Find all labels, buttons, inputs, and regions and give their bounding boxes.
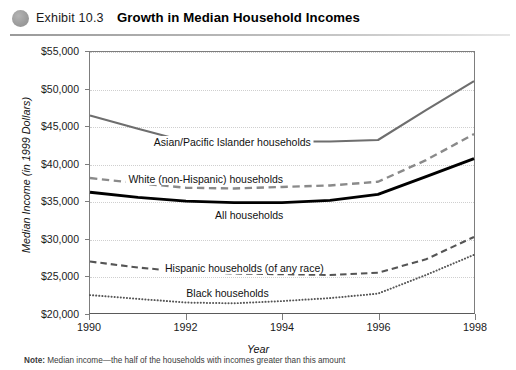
exhibit-header: Exhibit 10.3 Growth in Median Household … xyxy=(0,0,516,38)
header-divider xyxy=(10,34,510,36)
y-axis-label: $50,000 xyxy=(41,83,79,95)
x-axis-label: 1990 xyxy=(77,321,101,333)
page-title: Growth in Median Household Incomes xyxy=(117,10,360,25)
y-axis-label: $30,000 xyxy=(41,233,79,245)
series-line xyxy=(90,81,474,141)
x-axis-label: 1992 xyxy=(173,321,197,333)
y-axis-label: $25,000 xyxy=(41,270,79,282)
y-axis-label: $45,000 xyxy=(41,120,79,132)
y-axis-label: $55,000 xyxy=(41,45,79,57)
y-axis: $20,000$25,000$30,000$35,000$40,000$45,0… xyxy=(0,51,89,314)
x-axis-tick xyxy=(379,314,380,320)
footnote-text: Median income—the half of the households… xyxy=(47,356,345,365)
series-label: Hispanic households (of any race) xyxy=(162,262,327,274)
plot-area: Asian/Pacific Islander householdsWhite (… xyxy=(89,51,475,314)
x-axis-label: 1994 xyxy=(270,321,294,333)
footnote-prefix: Note: xyxy=(24,356,45,365)
x-axis-tick xyxy=(475,314,476,320)
y-axis-label: $40,000 xyxy=(41,158,79,170)
line-chart: Median Income (in 1999 Dollars) $20,000$… xyxy=(0,38,516,338)
series-label: Black households xyxy=(183,287,271,299)
footnote: Note: Median income—the half of the hous… xyxy=(24,355,494,370)
x-axis-label: 1996 xyxy=(366,321,390,333)
x-axis-tick xyxy=(282,314,283,320)
x-axis-label: 1998 xyxy=(463,321,487,333)
filled-circle-icon xyxy=(12,10,29,27)
series-label: All households xyxy=(212,209,286,221)
x-axis-title: Year xyxy=(0,343,516,355)
series-label: White (non-Hispanic) households xyxy=(125,173,286,185)
x-axis-tick xyxy=(89,314,90,320)
exhibit-number: Exhibit 10.3 xyxy=(36,11,104,25)
y-axis-label: $35,000 xyxy=(41,195,79,207)
x-axis-tick xyxy=(186,314,187,320)
y-axis-label: $20,000 xyxy=(41,308,79,320)
series-label: Asian/Pacific Islander households xyxy=(151,136,314,148)
